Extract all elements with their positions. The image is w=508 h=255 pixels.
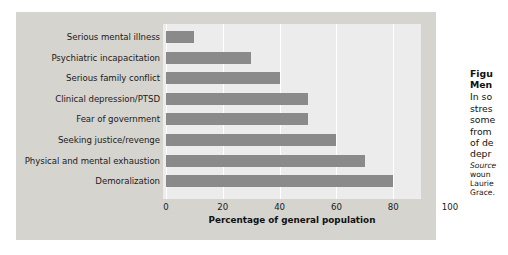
x-tick-label: 100 <box>442 202 458 212</box>
caption-source-line: woun <box>470 170 508 179</box>
bar <box>166 175 393 187</box>
bar-row: Serious family conflict <box>166 72 280 84</box>
bar-row: Serious mental illness <box>166 31 194 43</box>
bar <box>166 93 308 105</box>
x-tick-label: 0 <box>163 202 168 212</box>
bar <box>166 52 251 64</box>
bar <box>166 134 336 146</box>
category-label: Clinical depression/PTSD <box>55 94 160 104</box>
bar <box>166 155 365 167</box>
caption-source-line: Grace. <box>470 188 508 197</box>
bar-row: Clinical depression/PTSD <box>166 93 308 105</box>
bar-row: Seeking justice/revenge <box>166 134 336 146</box>
bar <box>166 113 308 125</box>
bar-series: Serious mental illnessPsychiatric incapa… <box>163 24 421 199</box>
bar-row: Demoralization <box>166 175 393 187</box>
caption-body-line: from <box>470 126 508 137</box>
bar <box>166 31 194 43</box>
x-axis-title: Percentage of general population <box>163 215 421 225</box>
caption-source: SourcewounLaurieGrace. <box>470 161 508 198</box>
x-tick-label: 40 <box>274 202 285 212</box>
caption-body-line: depr <box>470 148 508 159</box>
category-label: Seeking justice/revenge <box>58 135 160 145</box>
category-label: Physical and mental exhaustion <box>25 156 160 166</box>
caption-body-line: of de <box>470 137 508 148</box>
x-tick-label: 60 <box>331 202 342 212</box>
caption-body: In sostressomefromof dedepr <box>470 91 508 159</box>
caption-body-line: In so <box>470 91 508 102</box>
category-label: Psychiatric incapacitation <box>51 53 160 63</box>
figure-screenshot: Serious mental illnessPsychiatric incapa… <box>0 0 508 255</box>
caption-source-line: Laurie <box>470 179 508 188</box>
x-tick-label: 20 <box>217 202 228 212</box>
plot-area: Serious mental illnessPsychiatric incapa… <box>163 24 421 199</box>
caption-body-line: stres <box>470 103 508 114</box>
bar-row: Psychiatric incapacitation <box>166 52 251 64</box>
caption-title-line-2: Men <box>470 79 508 90</box>
category-label: Demoralization <box>95 176 160 186</box>
x-tick-label: 80 <box>388 202 399 212</box>
bar-row: Fear of government <box>166 113 308 125</box>
category-label: Serious family conflict <box>66 73 160 83</box>
figure-caption: Figu Men In sostressomefromof dedepr Sou… <box>470 68 508 198</box>
caption-title-line-1: Figu <box>470 68 508 79</box>
caption-body-line: some <box>470 114 508 125</box>
caption-source-label: Source <box>470 161 508 170</box>
bar-row: Physical and mental exhaustion <box>166 155 365 167</box>
category-label: Serious mental illness <box>67 32 160 42</box>
bar-chart-figure: Serious mental illnessPsychiatric incapa… <box>16 12 436 240</box>
bar <box>166 72 280 84</box>
category-label: Fear of government <box>76 114 160 124</box>
